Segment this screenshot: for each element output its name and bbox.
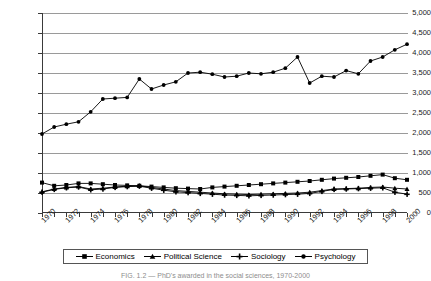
y-axis-tick [38,193,42,194]
gridline [43,13,408,14]
legend-label: Political Science [164,252,222,261]
legend-label: Sociology [251,252,286,261]
y-axis-tick [38,33,42,34]
gridline [43,73,408,74]
y-axis-label: 500 [393,189,431,197]
legend-label: Economics [96,252,135,261]
y-axis-label: 3,000 [393,89,431,97]
legend-item-sociology[interactable]: Sociology [231,252,286,261]
x-axis-tick [176,213,177,217]
y-axis-label: 5,000 [393,9,431,17]
x-axis-tick [127,213,128,217]
y-axis-label: 2,500 [393,109,431,117]
chart-figure: 05001,0001,5002,0002,5003,0003,5004,0004… [0,0,431,281]
legend-label: Psychology [315,252,356,261]
gridline [43,133,408,134]
x-axis-tick [152,213,153,217]
gridline [43,93,408,94]
x-axis-tick [54,213,55,217]
x-axis-tick [273,213,274,217]
gridline [43,113,408,114]
legend-marker-plus-icon [231,252,248,261]
y-axis-label: 3,500 [393,69,431,77]
x-axis-tick [371,213,372,217]
y-axis-tick [38,93,42,94]
gridline [43,33,408,34]
x-axis-tick [346,213,347,217]
chart-legend: EconomicsPolitical ScienceSociologyPsych… [63,249,368,264]
legend-item-economics[interactable]: Economics [76,252,135,261]
gridline [43,173,408,174]
x-axis-tick [298,213,299,217]
y-axis-label: 1,500 [393,149,431,157]
y-axis-tick [38,53,42,54]
x-axis-tick [395,213,396,217]
y-axis-label: 4,000 [393,49,431,57]
x-axis-tick [249,213,250,217]
legend-item-psychology[interactable]: Psychology [295,252,356,261]
y-axis-tick [38,73,42,74]
y-axis-label: 1,000 [393,169,431,177]
gridline [43,193,408,194]
y-axis-tick [38,133,42,134]
legend-marker-triangle-icon [144,252,161,261]
y-axis-tick [38,173,42,174]
y-axis-tick [38,153,42,154]
figure-caption: FIG. 1.2 — PhD's awarded in the social s… [0,272,431,280]
plot-area [42,13,407,213]
x-axis-tick [322,213,323,217]
y-axis-tick [38,113,42,114]
y-axis-label: 2,000 [393,129,431,137]
y-axis-label: 4,500 [393,29,431,37]
y-axis-tick [38,13,42,14]
legend-marker-square-icon [76,252,93,261]
x-axis-tick [103,213,104,217]
legend-item-political-science[interactable]: Political Science [144,252,222,261]
x-axis-tick [225,213,226,217]
x-axis-tick [200,213,201,217]
legend-marker-circle-icon [295,252,312,261]
x-axis-tick [79,213,80,217]
gridline [43,53,408,54]
gridline [43,153,408,154]
